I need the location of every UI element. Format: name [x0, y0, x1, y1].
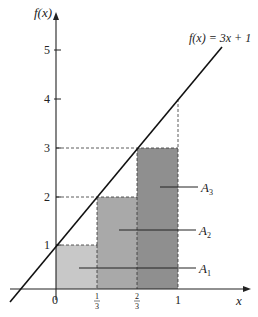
function-label: f(x) = 3x + 1	[189, 31, 251, 45]
y-tick-2: 2	[44, 190, 50, 204]
rect-a2	[97, 197, 137, 289]
area-label-a3: A3	[200, 180, 213, 197]
y-tick-5: 5	[44, 43, 50, 57]
x-tick-1: 1	[175, 293, 181, 307]
y-axis-arrow-icon	[53, 12, 59, 20]
x-tick-third-den: 3	[95, 302, 99, 311]
x-axis-label: x	[235, 293, 242, 308]
x-tick-0: 0	[52, 293, 58, 307]
y-tick-4: 4	[44, 92, 50, 106]
riemann-sum-diagram: f(x) 5 4 3 2 1 0 1 3 2 3 1 x f(x) = 3x +…	[0, 0, 258, 317]
area-label-a1: A1	[198, 261, 211, 278]
area-label-a2: A2	[198, 223, 211, 240]
y-axis-label: f(x)	[34, 5, 52, 20]
x-axis-arrow-icon	[243, 286, 251, 292]
y-ticks	[54, 50, 61, 245]
y-tick-1: 1	[44, 238, 50, 252]
rect-a1	[56, 245, 97, 289]
x-tick-twothirds-num: 2	[135, 292, 139, 301]
x-tick-third-num: 1	[95, 292, 99, 301]
x-tick-twothirds-den: 3	[135, 302, 139, 311]
y-tick-3: 3	[44, 141, 50, 155]
